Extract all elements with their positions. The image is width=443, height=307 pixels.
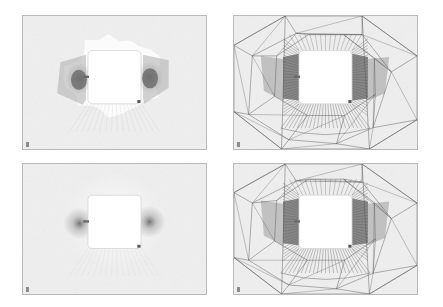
panel-adaptive-mesh-coarse [233, 15, 418, 150]
axis-corner-tick [237, 287, 240, 292]
axis-corner-tick [237, 142, 240, 147]
axis-corner-tick [26, 142, 29, 147]
figure-canvas [0, 0, 443, 307]
panel-solution-field-refined [22, 163, 207, 295]
panel-solution-field-coarse [22, 15, 207, 150]
axis-corner-tick [26, 287, 29, 292]
panel-adaptive-mesh-refined [233, 163, 418, 295]
